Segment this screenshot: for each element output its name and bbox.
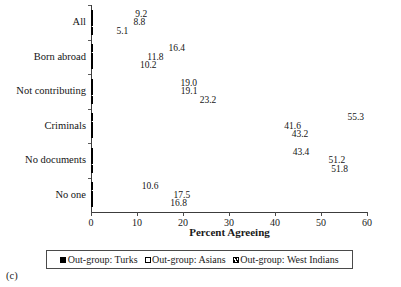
bar: [91, 156, 93, 164]
x-tick-mark: [183, 212, 184, 216]
bar-group: Not contributing19.019.123.2: [91, 74, 367, 109]
legend-swatch-icon: [145, 257, 151, 263]
bar-row: 43.4: [91, 148, 291, 156]
bar: [91, 199, 93, 207]
bar: [91, 182, 93, 190]
x-tick-mark: [229, 212, 230, 216]
bar: [91, 79, 93, 87]
bar-row: 5.1: [91, 27, 114, 35]
bar-row: 51.8: [91, 165, 329, 173]
bar-row: 10.2: [91, 61, 138, 69]
bar: [91, 191, 93, 199]
bar-row: 23.2: [91, 96, 198, 104]
bar-group: No documents43.451.251.8: [91, 143, 367, 178]
bar-value-label: 16.8: [170, 198, 187, 208]
bar: [91, 44, 93, 52]
bar: [91, 130, 93, 138]
x-axis-title: Percent Agreeing: [91, 226, 368, 239]
bar: [91, 165, 93, 173]
legend-label: Out-group: West Indians: [240, 254, 338, 265]
bar-row: 51.2: [91, 156, 327, 164]
category-label: Criminals: [45, 120, 86, 131]
bar-group: All9.28.85.1: [91, 5, 367, 40]
bar-value-label: 16.4: [168, 43, 185, 53]
bar-group: No one10.617.516.8: [91, 178, 367, 213]
bar: [91, 27, 93, 35]
bar-row: 17.5: [91, 191, 172, 199]
bar-row: 19.0: [91, 79, 178, 87]
x-tick-mark: [275, 212, 276, 216]
x-tick-mark: [367, 212, 368, 216]
bar: [91, 18, 93, 26]
bar-value-label: 43.2: [292, 129, 309, 139]
x-tick-mark: [321, 212, 322, 216]
bar-row: 16.8: [91, 199, 168, 207]
bar-row: 9.2: [91, 10, 133, 18]
bar-group: Criminals55.341.643.2: [91, 109, 367, 144]
bar-row: 10.6: [91, 182, 140, 190]
figure-panel-c: 0102030405060 All9.28.85.1Born abroad16.…: [0, 0, 401, 287]
bar-value-label: 10.2: [140, 60, 157, 70]
legend-entry[interactable]: Out-group: Turks: [60, 254, 137, 265]
bar-row: 55.3: [91, 113, 345, 121]
bar-value-label: 51.8: [331, 164, 348, 174]
legend-label: Out-group: Turks: [68, 254, 138, 265]
category-label: Born abroad: [34, 51, 86, 62]
bar: [91, 113, 93, 121]
category-label: No documents: [25, 154, 86, 165]
category-label: No one: [55, 189, 86, 200]
panel-label: (c): [6, 270, 18, 282]
bar-row: 41.6: [91, 122, 282, 130]
category-label: All: [73, 16, 86, 27]
bar: [91, 148, 93, 156]
legend-label: Out-group: Asians: [152, 254, 226, 265]
plot-area: 0102030405060 All9.28.85.1Born abroad16.…: [91, 5, 367, 212]
bar: [91, 61, 93, 69]
bar-value-label: 23.2: [200, 95, 217, 105]
bar-group: Born abroad16.411.810.2: [91, 40, 367, 75]
bar: [91, 53, 93, 61]
bar: [91, 10, 93, 18]
x-tick-mark: [137, 212, 138, 216]
legend-entry[interactable]: Out-group: Asians: [145, 254, 226, 265]
legend-swatch-icon: [60, 257, 66, 263]
bar-value-label: 10.6: [142, 181, 159, 191]
bar-row: 19.1: [91, 87, 179, 95]
bar-value-label: 43.4: [293, 147, 310, 157]
bar: [91, 96, 93, 104]
x-tick-mark: [91, 212, 92, 216]
chart-legend: Out-group: TurksOut-group: AsiansOut-gro…: [46, 250, 353, 269]
bar-value-label: 8.8: [133, 17, 145, 27]
bar: [91, 87, 93, 95]
legend-entry[interactable]: Out-group: West Indians: [233, 254, 339, 265]
bar-value-label: 19.1: [181, 86, 198, 96]
bar-value-label: 5.1: [116, 26, 128, 36]
bar: [91, 122, 93, 130]
bar-row: 11.8: [91, 53, 145, 61]
category-label: Not contributing: [16, 85, 86, 96]
bar-row: 43.2: [91, 130, 290, 138]
bar-value-label: 55.3: [347, 112, 364, 122]
legend-swatch-icon: [233, 257, 239, 263]
